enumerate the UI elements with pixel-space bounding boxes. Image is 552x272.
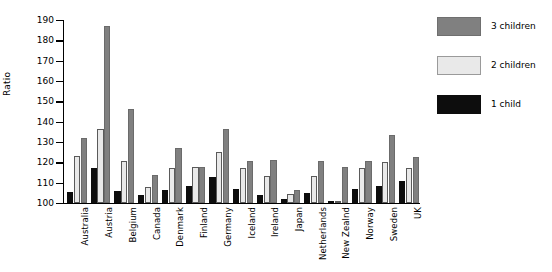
legend-label: 1 child	[491, 99, 521, 109]
y-axis-tick-label: 180	[28, 36, 54, 45]
bar	[294, 190, 300, 203]
bar	[162, 190, 168, 203]
x-axis-label: Netherlands	[318, 207, 328, 260]
y-axis-tick-label: 100	[28, 199, 54, 208]
legend-label: 2 children	[491, 60, 536, 70]
bar	[352, 189, 358, 203]
bar	[365, 161, 371, 203]
bar-group	[304, 20, 324, 203]
bar-group	[186, 20, 206, 203]
bar	[199, 167, 205, 203]
bar-group	[399, 20, 419, 203]
bar	[281, 199, 287, 203]
bar	[240, 168, 246, 203]
bar	[169, 168, 175, 203]
y-axis-tick-label: 190	[28, 16, 54, 25]
bar-group	[67, 20, 87, 203]
bar	[67, 192, 73, 203]
bar-group	[376, 20, 396, 203]
legend-swatch	[437, 95, 481, 114]
x-axis-label: UK	[413, 207, 423, 219]
x-axis-label: Denmark	[175, 207, 185, 247]
bar-group	[281, 20, 301, 203]
legend-item: 3 children	[437, 17, 547, 39]
bar	[128, 109, 134, 203]
bar	[192, 167, 198, 203]
legend-label: 3 children	[491, 21, 536, 31]
bar	[138, 195, 144, 203]
y-axis-tick-label: 160	[28, 77, 54, 86]
y-axis-tick-label: 150	[28, 97, 54, 106]
bar	[152, 175, 158, 203]
bar	[318, 161, 324, 203]
bar	[91, 168, 97, 203]
bar-group	[138, 20, 158, 203]
legend-item: 1 child	[437, 95, 547, 117]
y-axis-title: Ratio	[2, 72, 12, 96]
x-axis-label: Iceland	[247, 207, 257, 238]
bar-group	[114, 20, 134, 203]
x-axis-line	[63, 203, 420, 204]
bar	[264, 176, 270, 203]
x-axis-label: Norway	[365, 207, 375, 240]
bar-group	[233, 20, 253, 203]
legend: 3 children2 children1 child	[437, 17, 547, 134]
x-axis-label: Belgium	[128, 207, 138, 243]
plot-area	[64, 20, 420, 203]
bar	[376, 186, 382, 203]
legend-swatch	[437, 17, 481, 36]
x-axis-label: Ireland	[270, 207, 280, 237]
y-axis-tick-label: 120	[28, 158, 54, 167]
bar-group	[257, 20, 277, 203]
bar	[399, 181, 405, 203]
bar-group	[352, 20, 372, 203]
bar	[335, 201, 341, 203]
bar	[145, 187, 151, 203]
bar	[247, 161, 253, 203]
legend-swatch	[437, 56, 481, 75]
bar	[270, 160, 276, 203]
bar	[257, 195, 263, 203]
bar-group	[209, 20, 229, 203]
bar	[311, 176, 317, 203]
bar	[359, 168, 365, 203]
bar	[175, 148, 181, 203]
x-axis-label: Finland	[199, 207, 209, 238]
bar	[209, 177, 215, 203]
legend-item: 2 children	[437, 56, 547, 78]
y-axis-tick-label: 110	[28, 178, 54, 187]
y-axis-tick-label: 140	[28, 117, 54, 126]
bar	[223, 129, 229, 203]
bar	[406, 168, 412, 203]
bar	[342, 167, 348, 203]
bar	[304, 193, 310, 203]
bar	[114, 191, 120, 203]
bar	[104, 26, 110, 203]
bar	[382, 162, 388, 203]
bar	[121, 161, 127, 203]
x-axis-label: Australia	[80, 207, 90, 246]
bar-group	[91, 20, 111, 203]
bar	[413, 157, 419, 203]
x-axis-label: Austria	[104, 207, 114, 238]
x-axis-label: New Zealnd	[341, 207, 351, 259]
bar	[81, 138, 87, 203]
bar-group	[162, 20, 182, 203]
x-axis-label: Japan	[294, 207, 304, 231]
bar-chart: Ratio 100110120130140150160170180190 Aus…	[0, 0, 552, 272]
y-axis-tick-label: 130	[28, 138, 54, 147]
x-axis-label: Germany	[223, 207, 233, 247]
y-axis-tick-label: 170	[28, 56, 54, 65]
bar-group	[328, 20, 348, 203]
bar	[186, 186, 192, 203]
bar	[233, 189, 239, 203]
bar	[328, 201, 334, 203]
bar	[389, 135, 395, 203]
bar	[287, 194, 293, 203]
bar	[216, 152, 222, 203]
bar	[74, 156, 80, 203]
bar	[97, 129, 103, 203]
x-axis-label: Sweden	[389, 207, 399, 241]
x-axis-label: Canada	[152, 207, 162, 240]
